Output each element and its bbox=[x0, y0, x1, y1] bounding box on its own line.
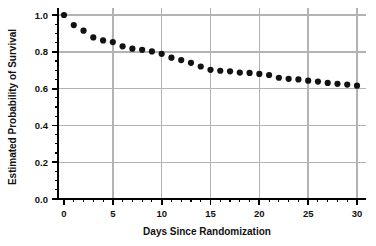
data-point-day-9 bbox=[149, 48, 155, 54]
data-point-day-11 bbox=[168, 55, 174, 61]
data-point-day-3 bbox=[90, 34, 96, 40]
y-tick-label-1: 1.0 bbox=[35, 10, 48, 21]
data-point-day-14 bbox=[198, 63, 204, 69]
y-axis-title: Estimated Probability of Survival bbox=[7, 29, 18, 185]
data-point-day-26 bbox=[315, 79, 321, 85]
data-point-day-30 bbox=[354, 83, 360, 89]
data-point-day-6 bbox=[120, 43, 126, 49]
data-point-day-18 bbox=[237, 69, 243, 75]
x-tick-label-0: 0 bbox=[61, 208, 66, 219]
y-tick-label-0.4: 0.4 bbox=[35, 120, 49, 131]
data-point-day-12 bbox=[178, 57, 184, 63]
data-point-day-24 bbox=[295, 76, 301, 82]
data-point-day-0 bbox=[61, 12, 67, 18]
data-point-day-22 bbox=[276, 75, 282, 81]
data-point-day-29 bbox=[344, 81, 350, 87]
data-point-day-4 bbox=[100, 37, 106, 43]
data-point-day-2 bbox=[80, 28, 86, 34]
data-point-day-16 bbox=[217, 68, 223, 74]
data-point-day-10 bbox=[159, 51, 165, 57]
data-point-day-23 bbox=[286, 76, 292, 82]
data-point-day-20 bbox=[256, 71, 262, 77]
x-tick-label-15: 15 bbox=[205, 208, 216, 219]
chart-canvas: 0.00.20.40.60.81.0 051015202530 Estimate… bbox=[0, 0, 376, 246]
data-point-day-27 bbox=[325, 80, 331, 86]
data-point-day-8 bbox=[139, 47, 145, 53]
y-tick-label-0.2: 0.2 bbox=[35, 157, 48, 168]
x-axis-title: Days Since Randomization bbox=[143, 226, 271, 237]
x-tick-label-30: 30 bbox=[352, 208, 363, 219]
data-point-day-13 bbox=[188, 60, 194, 66]
y-tick-label-0.8: 0.8 bbox=[35, 46, 48, 57]
x-tick-label-20: 20 bbox=[254, 208, 265, 219]
y-tick-label-0.6: 0.6 bbox=[35, 83, 48, 94]
data-point-day-17 bbox=[227, 68, 233, 74]
data-point-day-5 bbox=[110, 39, 116, 45]
data-point-day-19 bbox=[246, 70, 252, 76]
survival-curve-figure: 0.00.20.40.60.81.0 051015202530 Estimate… bbox=[0, 0, 376, 246]
x-tick-label-5: 5 bbox=[110, 208, 116, 219]
data-point-day-15 bbox=[207, 67, 213, 73]
data-point-day-7 bbox=[129, 46, 135, 52]
x-tick-label-10: 10 bbox=[156, 208, 167, 219]
data-point-day-28 bbox=[334, 81, 340, 87]
x-tick-label-25: 25 bbox=[303, 208, 314, 219]
data-point-day-21 bbox=[266, 72, 272, 78]
plot-background bbox=[0, 0, 376, 246]
data-point-day-1 bbox=[71, 22, 77, 28]
data-point-day-25 bbox=[305, 78, 311, 84]
y-tick-label-0: 0.0 bbox=[35, 194, 48, 205]
